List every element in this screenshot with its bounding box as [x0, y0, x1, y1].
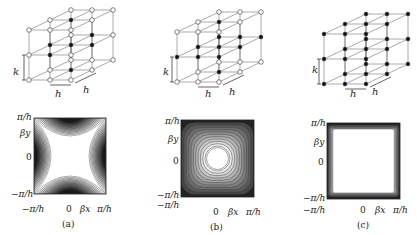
y-mid-label-b: 0 [173, 156, 179, 166]
y-bottom-label-c: −π/h [303, 193, 325, 203]
caption-b: (b) [210, 222, 223, 232]
y-top-label-b: π/h [165, 116, 180, 126]
lattice-node [322, 82, 326, 86]
lattice-node [406, 12, 410, 16]
lattice-node [48, 28, 53, 33]
lattice-node [111, 33, 116, 38]
y-axis-label-b: βy [168, 134, 178, 144]
lattice-node [343, 57, 347, 61]
lattice-node [364, 57, 368, 61]
x-left-label-b: −π/h [157, 200, 179, 210]
lattice-node [385, 62, 389, 66]
lattice-node [343, 32, 347, 36]
h-label-front-c: h [350, 88, 356, 99]
lattice-node [238, 10, 243, 15]
y-mid-label-c: 0 [318, 157, 324, 167]
lattice-node [238, 20, 243, 25]
lattice-node [217, 80, 222, 85]
lattice-node [385, 22, 389, 26]
lattice-node [69, 33, 74, 38]
lattice-node [364, 62, 368, 66]
lattice-node [259, 10, 264, 15]
lattice-node [217, 20, 221, 24]
h-depth-dimension-line [223, 75, 244, 85]
h-depth-dimension-line [75, 73, 96, 83]
lattice-node [48, 18, 53, 23]
lattice-node [111, 58, 116, 63]
lattice-node [217, 30, 222, 35]
x-left-label-a: −π/h [22, 204, 44, 214]
lattice-node [343, 47, 347, 51]
lattice-node [217, 45, 221, 49]
y-top-label-c: π/h [311, 118, 326, 128]
lattice-node [111, 8, 116, 13]
lattice-node [385, 47, 389, 51]
lattice-node [364, 32, 368, 36]
lattice-b [170, 10, 263, 87]
lattice-node [90, 8, 95, 13]
lattice-node [238, 35, 242, 39]
lattice-node [69, 68, 73, 72]
lattice-node [238, 45, 242, 49]
h-label-depth-c: h [372, 86, 378, 97]
x-mid-label-a: 0 [66, 204, 72, 214]
y-mid-label-a: 0 [26, 152, 32, 162]
lattice-node [27, 78, 32, 83]
lattice-node [69, 18, 73, 22]
x-right-label-a: π/h [97, 204, 112, 214]
x-left-label-c: −π/h [303, 205, 325, 215]
x-right-label-c: π/h [393, 205, 408, 215]
lattice-node [175, 80, 180, 85]
lattice-node [69, 78, 74, 83]
lattice-node [322, 32, 326, 36]
lattice-node [364, 37, 368, 41]
lattice-node [364, 47, 368, 51]
k-label-b: k [163, 66, 169, 77]
lattice-node [406, 62, 410, 66]
contour-plot-a [34, 118, 106, 194]
lattice-c [317, 12, 410, 89]
lattice-node [90, 58, 95, 63]
lattice-node [343, 22, 347, 26]
lattice-node [196, 80, 201, 85]
lattice-node [322, 57, 326, 61]
lattice-node [90, 43, 94, 47]
lattice-node [364, 72, 368, 76]
x-mid-label-c: 0 [360, 205, 366, 215]
lattice-node [385, 37, 389, 41]
lattice-node [27, 53, 32, 58]
lattice-node [27, 28, 32, 33]
k-label-a: k [13, 66, 19, 77]
lattice-node [48, 68, 53, 73]
x-axis-label-a: βx [80, 204, 90, 214]
lattice-node [69, 28, 74, 33]
lattice-node [343, 82, 347, 86]
lattice-node [385, 72, 389, 76]
x-axis-label-c: βx [375, 205, 385, 215]
lattice-node [364, 82, 368, 86]
caption-c: (c) [357, 220, 369, 230]
lattice-node [238, 60, 243, 65]
caption-a: (a) [62, 219, 74, 229]
lattice-node [196, 20, 201, 25]
lattice-node [196, 55, 200, 59]
lattice-node [217, 35, 221, 39]
figure-canvas [0, 0, 417, 235]
lattice-node [48, 53, 52, 57]
h-label-depth-a: h [83, 84, 89, 95]
lattice-node [69, 53, 74, 58]
lattice-node [217, 70, 221, 74]
lattice-node [196, 45, 200, 49]
contour-plot-c [327, 123, 400, 199]
contour-plot-b [181, 120, 254, 197]
h-label-depth-b: h [229, 86, 235, 97]
k-label-c: k [312, 64, 318, 75]
lattice-node [69, 58, 74, 63]
lattice-node [69, 43, 73, 47]
lattice-node [364, 12, 368, 16]
h-label-front-a: h [55, 88, 61, 99]
y-axis-label-a: βy [20, 128, 30, 138]
lattice-node [343, 72, 347, 76]
lattice-node [90, 33, 94, 37]
x-mid-label-b: 0 [213, 207, 219, 217]
